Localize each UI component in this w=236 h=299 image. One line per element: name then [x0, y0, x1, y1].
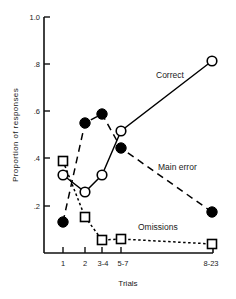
x-axis-tick-labels: 1 2 3-4 5-7 8-23: [61, 259, 219, 268]
omissions-marker-0: [59, 157, 68, 166]
y-tick-label-0: 1.0: [30, 13, 40, 22]
x-tick-label-0: 1: [61, 259, 65, 268]
chart-figure: 1.0 .8 .6 .4 .2 1 2 3-4 5-7 8-23 Trials …: [0, 0, 236, 299]
correct-marker-4: [207, 56, 217, 66]
correct-marker-3: [116, 126, 126, 136]
x-axis-ticks: [63, 247, 121, 253]
omissions-marker-4: [208, 240, 217, 249]
x-tick-label-1: 2: [83, 259, 87, 268]
omissions-marker-3: [117, 235, 126, 244]
axes: [44, 17, 213, 253]
omissions-marker-1: [81, 213, 90, 222]
y-tick-label-3: .4: [34, 154, 40, 163]
omissions-marker-2: [98, 236, 107, 245]
correct-marker-1: [80, 187, 90, 197]
x-tick-label-4: 8-23: [203, 259, 218, 268]
chart-svg: 1.0 .8 .6 .4 .2 1 2 3-4 5-7 8-23 Trials …: [0, 0, 236, 299]
x-tick-label-2: 3-4: [98, 259, 109, 268]
x-axis-title: Trials: [118, 279, 137, 288]
y-axis-tick-labels: 1.0 .8 .6 .4 .2: [30, 13, 40, 211]
main-error-marker-4: [207, 207, 217, 217]
x-tick-label-3: 5-7: [118, 259, 129, 268]
correct-marker-2: [97, 170, 107, 180]
y-tick-label-4: .2: [34, 202, 40, 211]
y-tick-label-1: .8: [34, 60, 40, 69]
correct-marker-0: [58, 170, 68, 180]
main-error-marker-0: [58, 217, 68, 227]
main-error-marker-2: [97, 109, 107, 119]
series-label-omissions: Omissions: [138, 222, 178, 232]
series-label-correct: Correct: [156, 70, 185, 80]
main-error-marker-3: [116, 143, 126, 153]
series-label-main-error: Main error: [158, 162, 197, 172]
main-error-marker-1: [80, 118, 90, 128]
y-axis-title: Proportion of responses: [11, 88, 20, 182]
y-axis-ticks: [44, 17, 50, 206]
y-tick-label-2: .6: [34, 107, 40, 116]
